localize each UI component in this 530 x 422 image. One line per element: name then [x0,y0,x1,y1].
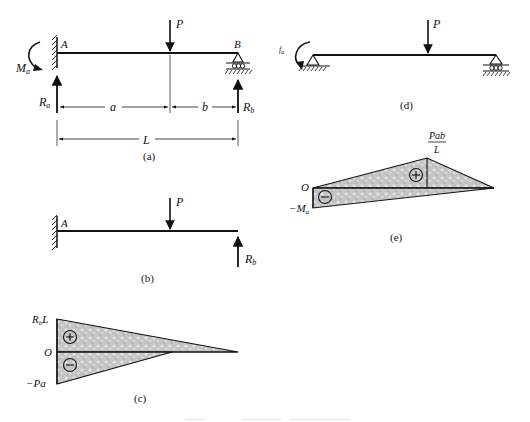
load-label: P [175,195,184,209]
svg-text:Pab: Pab [428,130,445,141]
dimension-L: L [59,133,236,147]
fixed-wall-icon [52,215,57,250]
roller-support-icon [225,53,252,74]
bottom-value-label: −Ma [289,202,310,216]
scan-artifact [185,419,350,420]
svg-text:b: b [202,100,208,114]
fixed-wall-icon [52,35,57,70]
positive-moment-area [57,319,238,352]
bottom-value-label: −Pa [26,377,46,389]
caption-a: (a) [143,150,156,163]
reaction-b-label: Rb [242,100,254,115]
support-a-label: A [60,217,68,229]
support-a-label: A [60,38,68,50]
moment-arrow-icon [29,42,43,71]
caption-e: (e) [390,231,403,244]
moment-label: Ma [15,61,30,76]
panel-b-cantilever: A P Rb (b) [52,195,256,285]
panel-e-moment-diagram: Pab L O −Ma (e) [289,130,494,244]
load-label: P [432,17,441,31]
panel-a-fixed-beam: P A B Ma Ra [15,17,254,163]
beam-diagram-figure: P A B Ma Ra [0,0,530,422]
dimension-a: a [60,100,168,114]
zero-label: O [44,346,52,358]
peak-value-label: Pab L [428,130,446,155]
svg-text:L: L [433,144,440,155]
panel-c-moment-diagram: RbL O −Pa (c) [26,313,238,405]
negative-moment-area [313,188,494,208]
svg-text:a: a [110,100,116,114]
caption-b: (b) [141,272,154,285]
dimension-b: b [172,100,236,114]
roller-support-icon [483,55,510,76]
reaction-b-label: Rb [244,252,256,267]
moment-label: fa [279,45,284,55]
panel-d-simply-supported-beam: P fa (d) [279,17,510,112]
reaction-a-label: Ra [38,95,50,110]
svg-text:L: L [142,133,150,147]
caption-c: (c) [134,392,147,405]
load-label: P [175,17,184,31]
top-value-label: RbL [31,313,48,327]
zero-label: O [301,181,309,193]
caption-d: (d) [400,99,413,112]
pin-support-icon [299,55,330,71]
support-b-label: B [234,38,241,50]
negative-moment-area [57,352,172,384]
positive-moment-area [313,158,494,188]
